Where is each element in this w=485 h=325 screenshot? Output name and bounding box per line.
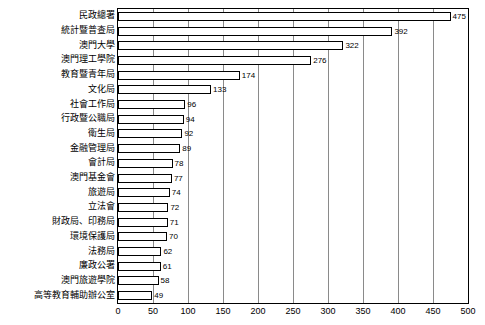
bar [118, 115, 184, 124]
gridline [363, 9, 364, 303]
bar-row: 77 [118, 171, 183, 185]
x-tick-label: 50 [141, 306, 165, 316]
category-label: 財政局、印務局 [1, 216, 115, 226]
gridline [328, 9, 329, 303]
category-label: 教育暨青年局 [1, 69, 115, 79]
bar-row: 392 [118, 24, 408, 38]
category-label: 高等教育輔助辦公室 [1, 290, 115, 300]
bar-row: 61 [118, 259, 172, 273]
category-label: 澳門旅遊學院 [1, 275, 115, 285]
category-label: 會計局 [1, 157, 115, 167]
bar-value-label: 475 [453, 12, 466, 21]
bar [118, 174, 172, 183]
bar-row: 475 [118, 9, 466, 23]
x-tick-label: 350 [351, 306, 375, 316]
bar-row: 174 [118, 68, 255, 82]
bar-value-label: 96 [187, 100, 196, 109]
category-labels: 民政總署統計暨普查局澳門大學澳門理工學院教育暨青年局文化局社會工作局行政暨公職局… [0, 8, 115, 304]
bar-value-label: 94 [186, 115, 195, 124]
category-label: 旅遊局 [1, 187, 115, 197]
category-label: 民政總署 [1, 10, 115, 20]
bar-row: 70 [118, 230, 178, 244]
category-label: 法務局 [1, 246, 115, 256]
bar [118, 144, 180, 153]
bar [118, 262, 161, 271]
bar [118, 276, 159, 285]
bar-chart: 民政總署統計暨普查局澳門大學澳門理工學院教育暨青年局文化局社會工作局行政暨公職局… [0, 0, 485, 325]
bar-value-label: 276 [313, 56, 326, 65]
bar-value-label: 174 [242, 71, 255, 80]
bar-row: 94 [118, 112, 195, 126]
bar-value-label: 78 [175, 159, 184, 168]
category-label: 金融管理局 [1, 143, 115, 153]
gridline [398, 9, 399, 303]
category-label: 社會工作局 [1, 99, 115, 109]
bar-value-label: 72 [170, 203, 179, 212]
bar-value-label: 92 [184, 129, 193, 138]
bar-row: 74 [118, 186, 181, 200]
plot-area: 4753923222761741339694928978777472717062… [117, 8, 469, 304]
bar [118, 56, 311, 65]
bar-row: 133 [118, 83, 226, 97]
x-tick-label: 400 [386, 306, 410, 316]
bar-value-label: 322 [345, 41, 358, 50]
bar-row: 62 [118, 245, 172, 259]
bar [118, 247, 161, 256]
bar-row: 92 [118, 127, 193, 141]
bar [118, 232, 167, 241]
bar-row: 71 [118, 215, 179, 229]
category-label: 立法會 [1, 201, 115, 211]
x-tick-label: 450 [421, 306, 445, 316]
bar-value-label: 58 [161, 276, 170, 285]
gridline [433, 9, 434, 303]
bar [118, 71, 240, 80]
bar-value-label: 133 [213, 85, 226, 94]
category-label: 澳門基金會 [1, 172, 115, 182]
category-label: 澳門理工學院 [1, 54, 115, 64]
bar-value-label: 49 [154, 291, 163, 300]
x-tick-label: 100 [176, 306, 200, 316]
bar [118, 100, 185, 109]
bar-row: 322 [118, 39, 359, 53]
category-label: 廉政公署 [1, 260, 115, 270]
x-tick-label: 300 [316, 306, 340, 316]
bar-value-label: 71 [170, 218, 179, 227]
bar-row: 276 [118, 53, 327, 67]
category-label: 行政暨公職局 [1, 113, 115, 123]
bar [118, 291, 152, 300]
bar [118, 12, 451, 21]
bar-value-label: 74 [172, 188, 181, 197]
bar [118, 159, 173, 168]
category-label: 澳門大學 [1, 40, 115, 50]
bar-row: 58 [118, 274, 170, 288]
category-label: 文化局 [1, 84, 115, 94]
bar-row: 72 [118, 200, 179, 214]
bar-value-label: 77 [174, 174, 183, 183]
x-axis-tick-labels: 050100150200250300350400450500 [117, 306, 469, 320]
x-tick-label: 150 [211, 306, 235, 316]
bar-row: 49 [118, 289, 163, 303]
x-tick-label: 250 [281, 306, 305, 316]
x-tick-label: 200 [246, 306, 270, 316]
bar-value-label: 89 [182, 144, 191, 153]
bar-row: 78 [118, 156, 184, 170]
bar [118, 203, 168, 212]
bar [118, 27, 392, 36]
bar-value-label: 62 [163, 247, 172, 256]
bar [118, 188, 170, 197]
bar-value-label: 61 [163, 262, 172, 271]
bar [118, 129, 182, 138]
category-label: 環境保護局 [1, 231, 115, 241]
category-label: 衛生局 [1, 128, 115, 138]
bar [118, 41, 343, 50]
x-tick-label: 0 [106, 306, 130, 316]
bar [118, 85, 211, 94]
bar-row: 89 [118, 142, 191, 156]
bar-value-label: 392 [394, 27, 407, 36]
bar-value-label: 70 [169, 232, 178, 241]
category-label: 統計暨普查局 [1, 25, 115, 35]
bar-row: 96 [118, 98, 196, 112]
x-tick-label: 500 [456, 306, 480, 316]
bar [118, 218, 168, 227]
